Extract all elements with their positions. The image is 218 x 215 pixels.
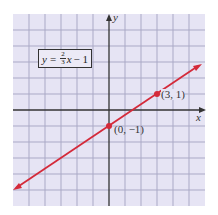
equation-box: y = 2 3 x − 1 — [38, 49, 92, 68]
x-axis-label: x — [196, 112, 201, 123]
equation-rest: − 1 — [74, 53, 88, 65]
point-label-0-neg1: (0, −1) — [114, 124, 144, 135]
equation-lhs: y — [42, 53, 47, 65]
y-axis-label: y — [113, 12, 118, 23]
point-label-3-1: (3, 1) — [161, 89, 185, 100]
point-0-neg1 — [106, 123, 112, 129]
graph — [0, 0, 218, 215]
fraction-denominator: 3 — [61, 59, 65, 66]
equation-variable: x — [67, 53, 72, 65]
point-3-1 — [154, 91, 160, 97]
equation-equals: = — [50, 53, 56, 65]
equation-fraction: 2 3 — [60, 51, 66, 66]
